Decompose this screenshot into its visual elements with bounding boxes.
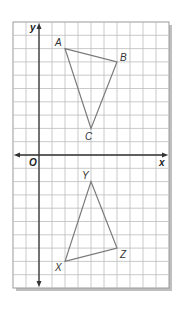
vertex-label-c: C <box>85 131 93 142</box>
coordinate-plane-figure: yxOABCXYZ <box>0 0 180 317</box>
y-axis-label: y <box>29 22 36 33</box>
vertex-label-b: B <box>120 52 127 63</box>
vertex-label-x: X <box>54 262 62 273</box>
origin-label: O <box>29 157 37 168</box>
vertex-label-z: Z <box>119 249 127 260</box>
coordinate-grid-svg: yxOABCXYZ <box>0 0 180 317</box>
x-axis-label: x <box>158 157 165 168</box>
vertex-label-a: A <box>54 37 62 48</box>
